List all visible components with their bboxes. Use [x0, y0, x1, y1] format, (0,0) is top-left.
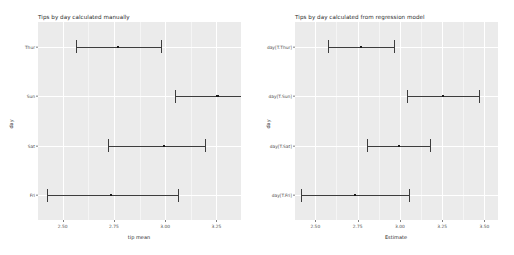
- x-tick-label: 3.00: [395, 224, 405, 229]
- y-tick-label: Fri: [30, 193, 35, 198]
- grid-line-minor-vertical: [191, 22, 192, 220]
- data-point: [360, 46, 362, 48]
- grid-line-minor-vertical: [140, 22, 141, 220]
- grid-line-minor-vertical: [421, 22, 422, 220]
- x-tick-mark: [400, 220, 401, 222]
- error-bar-cap: [76, 40, 77, 53]
- x-tick-label: 3.25: [212, 224, 222, 229]
- x-tick-label: 3.50: [480, 224, 490, 229]
- data-point: [110, 194, 112, 196]
- panel-left-title: Tips by day calculated manually: [38, 14, 130, 20]
- error-bar-cap: [328, 40, 329, 53]
- x-tick-mark: [114, 220, 115, 222]
- grid-line-major-vertical: [165, 22, 166, 220]
- x-tick-mark: [165, 220, 166, 222]
- error-bar-cap: [409, 189, 410, 202]
- grid-line-major-vertical: [216, 22, 217, 220]
- y-tick-mark: [36, 46, 38, 47]
- y-tick-label: day[T.Sun]: [269, 94, 292, 99]
- panel-right-x-axis-title: Estimate: [385, 234, 407, 240]
- grid-line-major-vertical: [63, 22, 64, 220]
- x-tick-mark: [358, 220, 359, 222]
- data-point: [163, 145, 165, 147]
- grid-line-minor-vertical: [379, 22, 380, 220]
- error-bar-cap: [205, 139, 206, 152]
- x-tick-mark: [216, 220, 217, 222]
- y-tick-mark: [36, 145, 38, 146]
- panel-right: Tips by day calculated from regression m…: [257, 0, 514, 255]
- data-point: [216, 95, 218, 97]
- error-bar: [108, 146, 206, 147]
- error-bar-cap: [430, 139, 431, 152]
- data-point: [442, 95, 444, 97]
- error-bar-cap: [108, 139, 109, 152]
- error-bar: [47, 195, 178, 196]
- error-bar-cap: [394, 40, 395, 53]
- x-tick-mark: [442, 220, 443, 222]
- grid-line-minor-vertical: [463, 22, 464, 220]
- grid-line-major-vertical: [358, 22, 359, 220]
- error-bar-cap: [407, 90, 408, 103]
- panel-left-x-axis-title: tip mean: [128, 234, 150, 240]
- grid-line-minor-vertical: [336, 22, 337, 220]
- grid-line-major-vertical: [442, 22, 443, 220]
- panel-left: Tips by day calculated manually day tip …: [0, 0, 257, 255]
- data-point: [398, 145, 400, 147]
- x-tick-mark: [484, 220, 485, 222]
- y-tick-mark: [293, 96, 295, 97]
- panel-left-y-axis-title: day: [8, 119, 14, 128]
- panel-right-plot-area: [295, 22, 498, 220]
- error-bar-cap: [47, 189, 48, 202]
- data-point: [117, 46, 119, 48]
- x-tick-label: 2.50: [58, 224, 68, 229]
- y-tick-label: Thur: [25, 44, 35, 49]
- error-bar-cap: [178, 189, 179, 202]
- grid-line-major-vertical: [315, 22, 316, 220]
- x-tick-label: 2.50: [310, 224, 320, 229]
- panel-right-y-axis-title: day: [265, 119, 271, 128]
- grid-line-major-vertical: [484, 22, 485, 220]
- y-tick-mark: [293, 46, 295, 47]
- panel-left-plot-area: [38, 22, 241, 220]
- panel-right-title: Tips by day calculated from regression m…: [295, 14, 425, 20]
- y-tick-mark: [293, 195, 295, 196]
- error-bar: [175, 96, 241, 97]
- grid-line-major-vertical: [114, 22, 115, 220]
- grid-line-major-vertical: [400, 22, 401, 220]
- error-bar-cap: [175, 90, 176, 103]
- y-tick-label: day[T.Fri]: [272, 193, 292, 198]
- error-bar-cap: [367, 139, 368, 152]
- y-tick-label: day[T.Sat]: [270, 143, 292, 148]
- y-tick-label: Sat: [28, 143, 35, 148]
- x-tick-label: 2.75: [353, 224, 363, 229]
- figure-canvas: Tips by day calculated manually day tip …: [0, 0, 514, 255]
- y-tick-mark: [36, 195, 38, 196]
- error-bar-cap: [301, 189, 302, 202]
- x-tick-label: 2.75: [109, 224, 119, 229]
- grid-line-major-horizontal: [295, 47, 498, 48]
- y-tick-mark: [293, 145, 295, 146]
- x-tick-mark: [63, 220, 64, 222]
- x-tick-label: 3.00: [160, 224, 170, 229]
- error-bar-cap: [479, 90, 480, 103]
- error-bar-cap: [161, 40, 162, 53]
- y-tick-label: Sun: [27, 94, 35, 99]
- data-point: [354, 194, 356, 196]
- y-tick-label: day[T.Thur]: [267, 44, 292, 49]
- grid-line-minor-vertical: [88, 22, 89, 220]
- x-tick-label: 3.25: [437, 224, 447, 229]
- x-tick-mark: [315, 220, 316, 222]
- y-tick-mark: [36, 96, 38, 97]
